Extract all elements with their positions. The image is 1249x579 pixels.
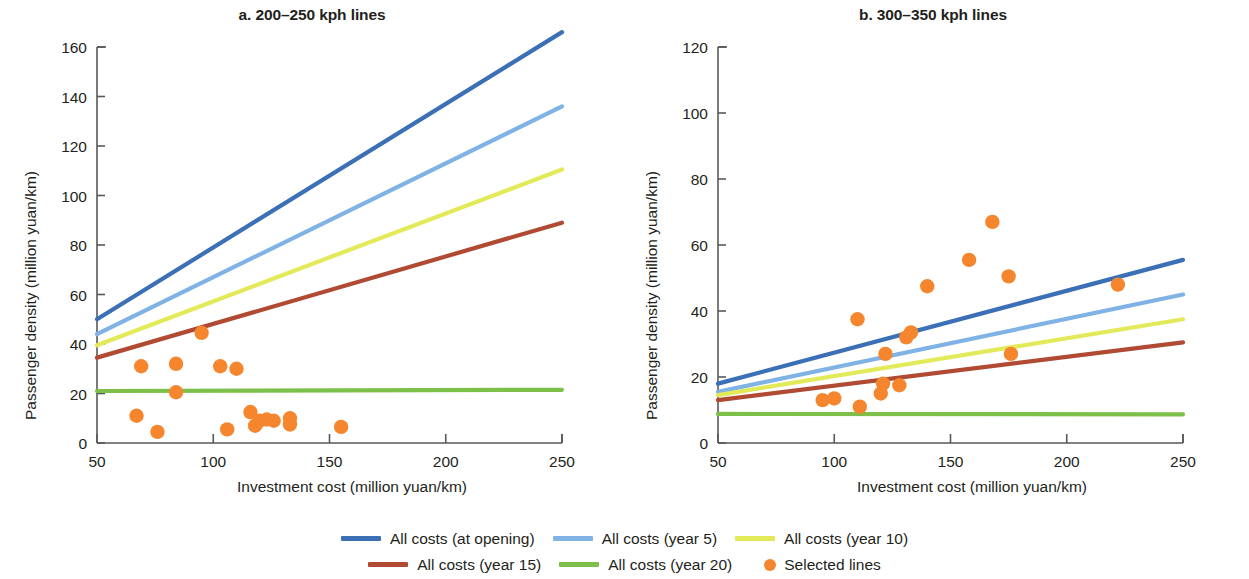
legend-selected-lines[interactable]: Selected lines [750, 557, 881, 573]
legend-all-costs-year-15[interactable]: All costs (year 15) [368, 557, 541, 573]
axes-group: 02040608010012014016050100150200250 [61, 39, 575, 470]
series-line-all-costs-year-15 [97, 223, 562, 358]
series-lines-group [97, 32, 562, 391]
series-line-all-costs-at-opening [97, 32, 562, 319]
y-axis-tick-label: 160 [61, 39, 87, 56]
y-axis-tick-label: 100 [61, 188, 87, 205]
scatter-point [334, 420, 348, 434]
scatter-point [194, 326, 208, 340]
scatter-point [892, 378, 906, 392]
scatter-point [169, 385, 183, 399]
scatter-point [213, 359, 227, 373]
scatter-point [1001, 269, 1015, 283]
series-line-all-costs-at-opening [718, 260, 1183, 384]
legend-label: All costs (year 10) [784, 531, 908, 547]
scatter-point [920, 279, 934, 293]
y-axis-tick-label: 60 [70, 287, 88, 304]
x-axis-tick-label: 250 [549, 453, 575, 470]
legend-label: Selected lines [784, 557, 881, 573]
scatter-point [229, 362, 243, 376]
x-axis-tick-label: 150 [317, 453, 343, 470]
y-axis-tick-label: 140 [61, 89, 87, 106]
scatter-point [150, 425, 164, 439]
y-axis-tick-label: 120 [682, 39, 708, 56]
series-line-all-costs-year-15 [718, 342, 1183, 400]
legend-line-swatch [559, 562, 599, 567]
y-axis-tick-label: 0 [699, 435, 708, 452]
scatter-point [267, 414, 281, 428]
panel-a-plot: 02040608010012014016050100150200250 [0, 0, 624, 520]
legend-label: All costs (year 15) [417, 557, 541, 573]
y-axis-tick-label: 40 [691, 303, 709, 320]
legend-all-costs-year-20[interactable]: All costs (year 20) [559, 557, 732, 573]
scatter-point [853, 400, 867, 414]
legend-all-costs-year-5[interactable]: All costs (year 5) [553, 531, 717, 547]
scatter-point [904, 325, 918, 339]
scatter-point [220, 422, 234, 436]
legend-label: All costs (at opening) [390, 531, 535, 547]
legend-line-swatch [341, 536, 381, 541]
scatter-point [1111, 277, 1125, 291]
legend-all-costs-year-10[interactable]: All costs (year 10) [735, 531, 908, 547]
legend-line-swatch [553, 536, 593, 541]
scatter-point [169, 357, 183, 371]
scatter-point [827, 391, 841, 405]
legend-row: All costs (year 15)All costs (year 20)Se… [0, 552, 1249, 577]
scatter-points-group [129, 326, 348, 439]
series-line-all-costs-year-20 [97, 390, 562, 391]
scatter-point [134, 359, 148, 373]
y-axis-tick-label: 20 [691, 369, 709, 386]
scatter-point [962, 253, 976, 267]
series-line-all-costs-year-5 [97, 106, 562, 334]
scatter-point [878, 347, 892, 361]
scatter-point [985, 215, 999, 229]
y-axis-tick-label: 0 [78, 435, 87, 452]
legend-line-swatch [735, 536, 775, 541]
series-line-all-costs-year-10 [718, 319, 1183, 395]
scatter-point [283, 411, 297, 425]
legend-all-costs-at-opening[interactable]: All costs (at opening) [341, 531, 535, 547]
legend-label: All costs (year 5) [602, 531, 717, 547]
scatter-point [1004, 347, 1018, 361]
panel-b: b. 300–350 kph lines Passenger density (… [621, 0, 1245, 520]
series-line-all-costs-year-5 [718, 295, 1183, 392]
legend-row: All costs (at opening)All costs (year 5)… [0, 526, 1249, 551]
figure-container: a. 200–250 kph lines Passenger density (… [0, 0, 1249, 579]
x-axis-tick-label: 200 [1054, 453, 1080, 470]
x-axis-tick-label: 100 [200, 453, 226, 470]
axes-group: 02040608010012050100150200250 [682, 39, 1196, 470]
panel-a: a. 200–250 kph lines Passenger density (… [0, 0, 624, 520]
x-axis-tick-label: 100 [821, 453, 847, 470]
y-axis-tick-label: 40 [70, 336, 88, 353]
x-axis-tick-label: 50 [709, 453, 727, 470]
legend-line-swatch [368, 562, 408, 567]
y-axis-tick-label: 100 [682, 105, 708, 122]
panel-b-plot: 02040608010012050100150200250 [621, 0, 1245, 520]
y-axis-tick-label: 80 [691, 171, 709, 188]
scatter-point [850, 312, 864, 326]
y-axis-tick-label: 120 [61, 138, 87, 155]
y-axis-tick-label: 20 [70, 386, 88, 403]
x-axis-tick-label: 50 [88, 453, 106, 470]
legend-dot-swatch [764, 559, 776, 571]
scatter-point [129, 409, 143, 423]
x-axis-tick-label: 250 [1170, 453, 1196, 470]
x-axis-tick-label: 200 [433, 453, 459, 470]
chart-legend: All costs (at opening)All costs (year 5)… [0, 524, 1249, 579]
series-line-all-costs-year-10 [97, 170, 562, 346]
legend-label: All costs (year 20) [608, 557, 732, 573]
x-axis-tick-label: 150 [938, 453, 964, 470]
y-axis-tick-label: 80 [70, 237, 88, 254]
scatter-point [876, 376, 890, 390]
y-axis-tick-label: 60 [691, 237, 709, 254]
